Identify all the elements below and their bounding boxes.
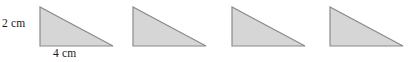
right-triangle-3	[231, 6, 306, 47]
triangle-outline	[330, 7, 403, 46]
right-triangle-2	[132, 6, 207, 47]
height-label: 2 cm	[2, 17, 25, 29]
triangles-figure: 2 cm 4 cm	[0, 0, 417, 62]
triangle-outline	[232, 7, 305, 46]
triangle-outline	[133, 7, 206, 46]
base-label: 4 cm	[53, 47, 76, 59]
triangle-shape-icon	[231, 6, 306, 47]
triangle-shape-icon	[132, 6, 207, 47]
triangle-shape-icon	[39, 6, 114, 47]
right-triangle-1	[39, 6, 114, 47]
triangle-shape-icon	[329, 6, 404, 47]
triangle-outline	[40, 7, 113, 46]
right-triangle-4	[329, 6, 404, 47]
